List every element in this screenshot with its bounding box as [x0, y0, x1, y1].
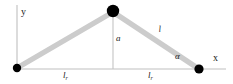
x-axis-label: x — [213, 53, 218, 63]
apex-joint — [107, 5, 119, 17]
angle-label: α — [175, 52, 180, 61]
y-axis-label: y — [21, 7, 26, 17]
length-label: l — [158, 25, 161, 34]
segment-left-label: lr — [63, 71, 68, 81]
height-label: a — [116, 34, 121, 43]
segment-left-subscript: r — [66, 75, 68, 81]
figure-container: y x a l α lr lr — [0, 0, 233, 84]
left-beam — [17, 12, 113, 68]
segment-right-label: lr — [148, 71, 153, 81]
right-beam — [113, 12, 199, 69]
right-joint — [194, 64, 203, 73]
segment-right-subscript: r — [151, 75, 153, 81]
left-joint — [13, 64, 21, 72]
